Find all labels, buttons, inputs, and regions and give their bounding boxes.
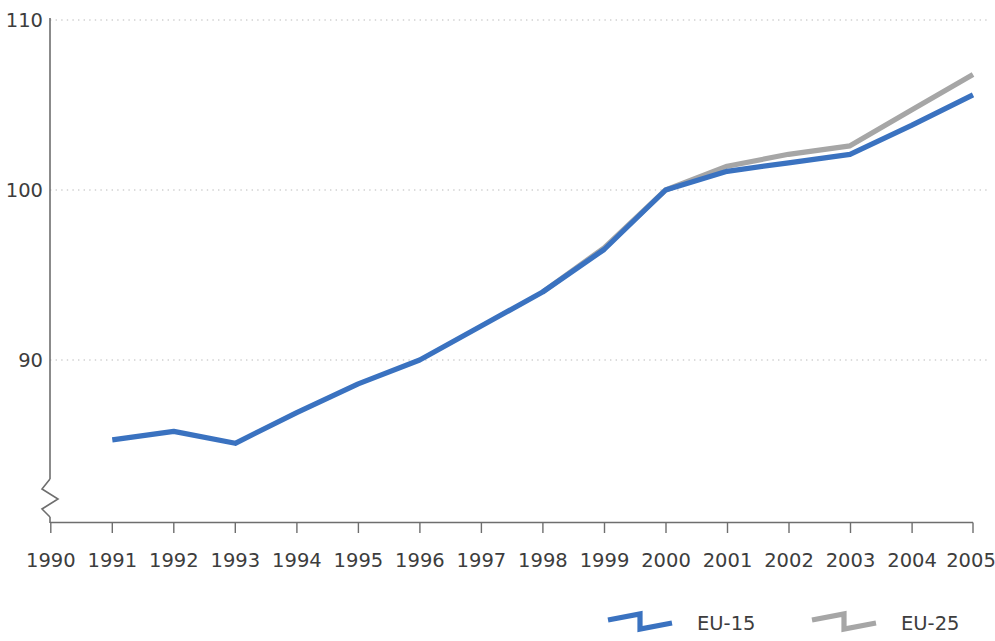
y-tick-label-100: 100 <box>6 179 43 202</box>
x-tick-label-1992: 1992 <box>149 549 199 572</box>
series-lines <box>112 74 973 443</box>
x-tick-label-1997: 1997 <box>457 549 507 572</box>
x-tick-label-2004: 2004 <box>887 549 937 572</box>
x-tick-label-2001: 2001 <box>703 549 753 572</box>
x-tick-label-1995: 1995 <box>334 549 384 572</box>
chart-legend: EU-15 EU-25 <box>608 612 959 635</box>
x-tick-label-2002: 2002 <box>764 549 814 572</box>
x-tick-label-1999: 1999 <box>580 549 630 572</box>
y-axis-break-zigzag-icon <box>42 479 58 517</box>
x-tick-label-1996: 1996 <box>395 549 445 572</box>
legend-label-eu25: EU-25 <box>901 612 959 635</box>
legend-swatch-eu25 <box>812 614 876 629</box>
series-line-eu25 <box>543 74 973 292</box>
x-tick-label-2003: 2003 <box>826 549 876 572</box>
x-tick-label-1991: 1991 <box>87 549 137 572</box>
legend-swatch-eu15 <box>608 614 672 629</box>
x-tick-label-1993: 1993 <box>210 549 260 572</box>
x-axis <box>50 523 973 534</box>
x-axis-tick-labels: 1990 1991 1992 1993 1994 1995 1996 1997 … <box>26 549 995 572</box>
y-tick-label-110: 110 <box>6 9 43 32</box>
x-tick-label-2000: 2000 <box>641 549 691 572</box>
gridlines <box>50 20 988 360</box>
x-tick-label-1998: 1998 <box>518 549 568 572</box>
x-tick-label-1994: 1994 <box>272 549 322 572</box>
y-tick-label-90: 90 <box>18 349 43 372</box>
x-tick-label-2005: 2005 <box>946 549 995 572</box>
chart-canvas: 110 100 90 1990 1991 1992 1993 1994 1995… <box>0 0 995 641</box>
y-axis <box>42 18 58 523</box>
legend-label-eu15: EU-15 <box>697 612 755 635</box>
line-chart: 110 100 90 1990 1991 1992 1993 1994 1995… <box>0 0 995 641</box>
x-tick-label-1990: 1990 <box>26 549 76 572</box>
y-axis-tick-labels: 110 100 90 <box>6 9 43 372</box>
